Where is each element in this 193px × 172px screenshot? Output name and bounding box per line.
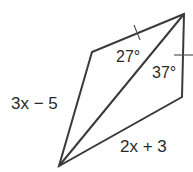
angle-label-37: 37°: [152, 64, 176, 81]
side-label-bottom: 2x + 3: [120, 137, 167, 156]
geometry-diagram: 27° 37° 3x − 5 2x + 3: [0, 0, 193, 172]
side-label-left: 3x − 5: [11, 94, 58, 113]
angle-label-27: 27°: [116, 48, 140, 65]
